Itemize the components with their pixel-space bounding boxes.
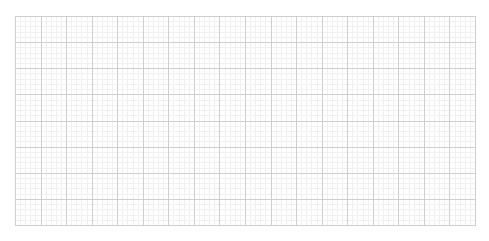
chart-plot-area (15, 16, 475, 225)
chart-grid (15, 16, 476, 226)
